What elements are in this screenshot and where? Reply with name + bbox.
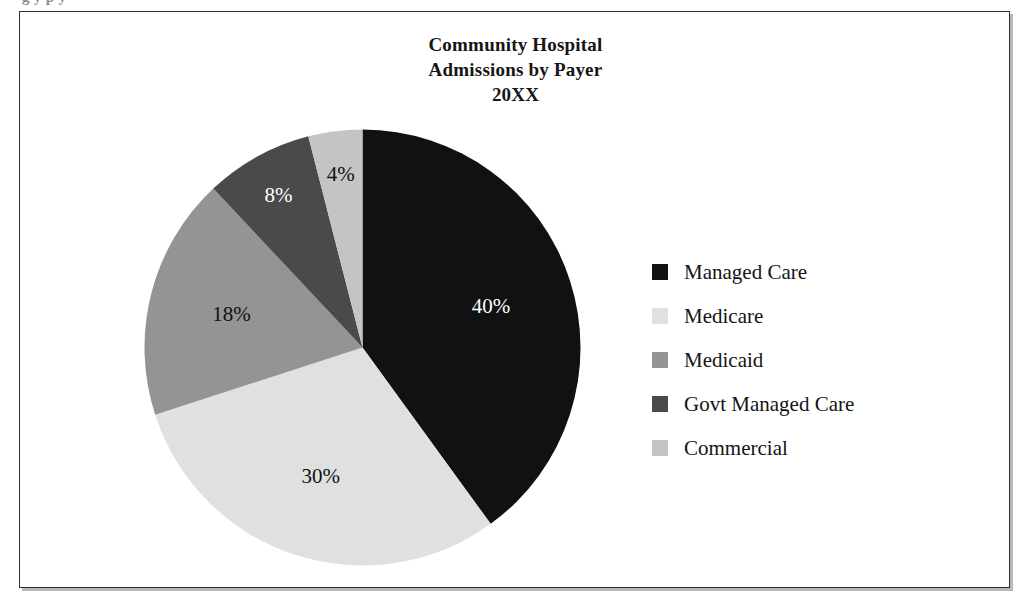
legend-item: Commercial <box>652 426 982 470</box>
chart-title-line-1: Community Hospital <box>20 32 1011 57</box>
legend-item-label: Managed Care <box>684 262 807 283</box>
legend-item: Medicaid <box>652 338 982 382</box>
caption-remnant-text: g y p y <box>22 0 66 5</box>
cut-off-caption-remnant: g y p y <box>0 0 1031 9</box>
chart-title: Community Hospital Admissions by Payer 2… <box>20 32 1011 107</box>
legend-color-swatch <box>652 352 668 368</box>
pie-slice-value-label: 4% <box>327 162 355 186</box>
figure-frame: Community Hospital Admissions by Payer 2… <box>19 11 1010 588</box>
pie-chart-svg: 40%30%18%8%4% <box>140 125 585 570</box>
chart-title-line-3: 20XX <box>20 82 1011 107</box>
legend-color-swatch <box>652 440 668 456</box>
legend-item-label: Medicaid <box>684 350 763 371</box>
legend-item: Medicare <box>652 294 982 338</box>
chart-title-line-2: Admissions by Payer <box>20 57 1011 82</box>
pie-slice-value-label: 40% <box>472 294 511 318</box>
legend-color-swatch <box>652 264 668 280</box>
pie-chart: 40%30%18%8%4% <box>140 125 585 570</box>
legend-item-label: Commercial <box>684 438 788 459</box>
legend-item-label: Medicare <box>684 306 763 327</box>
legend-color-swatch <box>652 396 668 412</box>
pie-slice-value-label: 8% <box>264 183 292 207</box>
pie-slice-value-label: 18% <box>212 302 251 326</box>
legend-item-label: Govt Managed Care <box>684 394 854 415</box>
legend-item: Govt Managed Care <box>652 382 982 426</box>
legend-color-swatch <box>652 308 668 324</box>
legend-item: Managed Care <box>652 250 982 294</box>
pie-slice-value-label: 30% <box>301 464 340 488</box>
chart-legend: Managed CareMedicareMedicaidGovt Managed… <box>652 250 982 470</box>
